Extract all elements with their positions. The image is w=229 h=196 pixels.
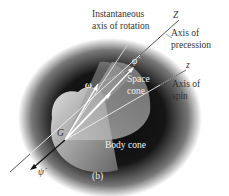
psi-dot-label: ψ̇ [38, 167, 44, 177]
axis-of-precession-label-line2: precession [171, 40, 211, 50]
space-cone-label-line1: Space [127, 74, 150, 84]
body-cone-label: Body cone [105, 140, 146, 150]
phi-dot-label: φ̇ [132, 56, 137, 66]
axis-of-spin-label-line1: Axis of [172, 79, 200, 89]
space-cone-label-line2: cone [127, 86, 145, 96]
axis-precession-line-outer [10, 154, 30, 172]
instantaneous-axis-label-line2: axis of rotation [92, 21, 150, 31]
instantaneous-axis-label-line1: Instantaneous [92, 9, 144, 19]
axis-of-precession-label-line1: Axis of [171, 28, 199, 38]
G-label: G [57, 128, 64, 138]
omega-label: ω [85, 80, 92, 90]
panel-label: (b) [92, 171, 103, 181]
axis-of-spin-label-line2: spin [172, 91, 188, 101]
z-axis-label: z [186, 60, 190, 70]
Z-axis-label: Z [173, 10, 178, 20]
